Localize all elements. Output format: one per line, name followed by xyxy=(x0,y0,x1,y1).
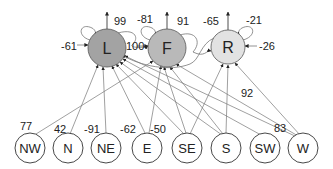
label-F-cross: 91 xyxy=(177,15,189,27)
node-E-label: E xyxy=(143,141,152,156)
node-N-label: N xyxy=(63,141,72,156)
neural-network-diagram: L F R -61 99 100 -81 91 -65 -21 -26 92 N… xyxy=(0,0,333,169)
node-R: R xyxy=(211,30,245,64)
node-F-label: F xyxy=(162,40,172,57)
label-L-bias: -61 xyxy=(61,40,77,52)
node-SW-label: SW xyxy=(255,141,277,156)
label-F-self: -81 xyxy=(137,13,153,25)
node-L-label: L xyxy=(103,40,112,57)
node-SE-label: SE xyxy=(178,141,196,156)
node-L: L xyxy=(88,29,126,67)
edges xyxy=(36,56,300,137)
label-R-bias: -65 xyxy=(203,15,219,27)
label-SE-weight: -50 xyxy=(150,123,166,135)
label-NW-weight: 77 xyxy=(20,120,32,132)
label-edge-92: 92 xyxy=(241,87,253,99)
label-N-weight: 42 xyxy=(54,123,66,135)
node-NW-label: NW xyxy=(19,141,41,156)
label-F-bias: 100 xyxy=(126,40,144,52)
label-R-side: -26 xyxy=(259,40,275,52)
node-NE-label: NE xyxy=(97,141,115,156)
label-R-self: -21 xyxy=(246,14,262,26)
label-L-self: 99 xyxy=(114,15,126,27)
label-W-weight: 83 xyxy=(274,122,286,134)
node-R-label: R xyxy=(222,39,234,56)
label-NE-weight: -91 xyxy=(84,123,100,135)
label-E-weight: -62 xyxy=(120,123,136,135)
node-W-label: W xyxy=(297,141,310,156)
node-F: F xyxy=(148,29,186,67)
node-S-label: S xyxy=(222,141,231,156)
